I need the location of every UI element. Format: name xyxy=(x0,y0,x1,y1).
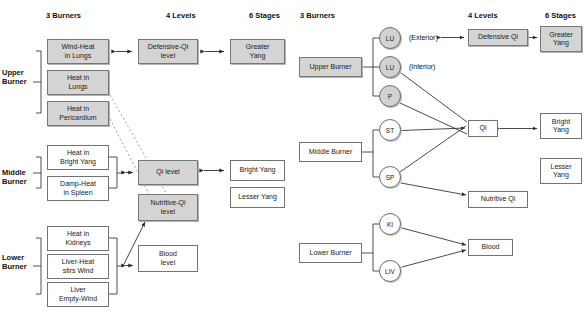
column-header-left_panel-2: 6 Stages xyxy=(249,11,280,20)
right-bracket-group xyxy=(362,38,379,271)
node-middle-burner[interactable]: Middle Burner xyxy=(299,142,362,162)
node-qi-level[interactable]: Qi level xyxy=(138,160,198,185)
node-liver-heat-stirs-wind[interactable]: Liver-Heat stirs Wind xyxy=(47,254,109,279)
burner-label-1: Middle Burner xyxy=(2,168,27,186)
burner-label-2: Lower Burner xyxy=(2,253,27,271)
node-liver-empty-wind[interactable]: Liver Empty-Wind xyxy=(47,282,109,307)
note-interior-note: (Interior) xyxy=(409,63,435,70)
organ-lu-exterior[interactable]: LU xyxy=(379,27,401,49)
node-heat-in-lungs[interactable]: Heat in Lungs xyxy=(47,70,109,95)
organ-p[interactable]: P xyxy=(379,85,401,107)
node-nutritive-qi-level[interactable]: Nutritive-Qi level xyxy=(138,194,198,221)
bracket-middle-left xyxy=(36,157,41,188)
node-lesser-yang-r[interactable]: Lesser Yang xyxy=(540,158,582,184)
column-header-left_panel-0: 3 Burners xyxy=(46,11,81,20)
node-heat-in-kidneys[interactable]: Heat in Kidneys xyxy=(47,226,109,251)
right-arrow-group xyxy=(400,38,537,268)
node-blood-level[interactable]: Blood level xyxy=(138,245,198,272)
arrow-sp-nutritiveqi xyxy=(401,183,466,195)
burner-label-0: Upper Burner xyxy=(2,68,27,86)
node-bright-yang-r[interactable]: Bright Yang xyxy=(540,113,582,139)
arrow-ki-blood xyxy=(402,228,466,245)
bracket-middle-right xyxy=(109,157,117,188)
organ-sp[interactable]: SP xyxy=(379,166,401,188)
node-damp-heat-in-spleen[interactable]: Damp-Heat in Spleen xyxy=(47,176,109,201)
left-arrow-group xyxy=(116,52,224,266)
arrow-qi-luinterior xyxy=(401,73,467,122)
node-qi[interactable]: Qi xyxy=(468,120,498,137)
node-greater-yang-r[interactable]: Greater Yang xyxy=(540,26,582,52)
arrow-sp-qi xyxy=(400,126,466,172)
node-lesser-yang[interactable]: Lesser Yang xyxy=(230,187,285,208)
node-upper-burner[interactable]: Upper Burner xyxy=(299,57,362,77)
organ-ki[interactable]: KI xyxy=(379,213,401,235)
column-header-left_panel-1: 4 Levels xyxy=(166,11,196,20)
note-exterior-note: (Exterior) xyxy=(409,34,438,41)
column-header-right_panel-1: 4 Levels xyxy=(468,11,498,20)
node-heat-in-pericardium[interactable]: Heat in Pericardium xyxy=(47,101,109,126)
node-lower-burner[interactable]: Lower Burner xyxy=(299,243,362,263)
organ-lu-interior[interactable]: LU xyxy=(379,56,401,78)
node-nutritive-qi[interactable]: Nutritive Qi xyxy=(468,191,528,208)
column-header-right_panel-2: 6 Stages xyxy=(545,11,576,20)
column-header-right_panel-0: 3 Burners xyxy=(300,11,335,20)
arrow-liv-blood xyxy=(402,250,466,267)
node-heat-in-bright-yang[interactable]: Heat in Bright Yang xyxy=(47,145,109,170)
node-blood[interactable]: Blood xyxy=(468,239,513,256)
node-greater-yang[interactable]: Greater Yang xyxy=(230,39,285,64)
diagram-canvas: 3 Burners4 Levels6 StagesUpper BurnerMid… xyxy=(0,0,588,317)
organ-liv[interactable]: LIV xyxy=(379,260,401,282)
node-defensive-qi-level[interactable]: Defensive-Qi level xyxy=(138,39,198,64)
organ-st[interactable]: ST xyxy=(379,119,401,141)
node-bright-yang[interactable]: Bright Yang xyxy=(230,160,285,181)
node-defensive-qi[interactable]: Defensive Qi xyxy=(468,29,528,46)
bracket-lower-right xyxy=(109,238,117,294)
node-wind-heat-in-lungs[interactable]: Wind-Heat in Lungs xyxy=(47,39,109,64)
